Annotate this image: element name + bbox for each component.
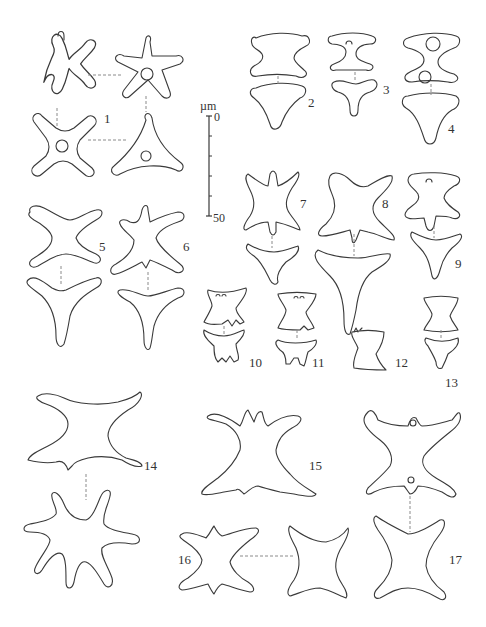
cell-drawings [0, 0, 486, 627]
figure-14 [24, 392, 142, 588]
figure-2 [250, 33, 309, 129]
figure-17-front-view [364, 411, 461, 497]
figure-label-13: 13 [445, 376, 458, 389]
figure-16-front-view [179, 526, 258, 594]
figure-label-9: 9 [455, 257, 462, 270]
figure-9 [405, 173, 462, 279]
scale-end-label: 50 [213, 212, 225, 224]
figure-label-15: 15 [309, 459, 322, 472]
figure-1-apical-view-triangle [112, 114, 183, 176]
figure-16-apical-view [240, 526, 349, 598]
figure-6 [111, 206, 184, 350]
figure-12 [352, 328, 386, 370]
figure-label-1: 1 [104, 112, 111, 125]
figure-15 [202, 410, 316, 496]
figure-17-apical-view [374, 496, 446, 600]
figure-plate: µm 0 50 1 2 3 4 5 6 7 8 9 10 11 12 13 14… [0, 0, 486, 627]
figure-label-8: 8 [382, 197, 389, 210]
figure-label-17: 17 [449, 553, 462, 566]
figure-label-11: 11 [312, 356, 325, 369]
scale-bar [206, 116, 212, 216]
scale-start-label: 0 [214, 111, 220, 123]
figure-label-6: 6 [183, 240, 190, 253]
figure-1-front-view [44, 32, 96, 94]
figure-label-16: 16 [178, 553, 191, 566]
figure-5 [27, 206, 102, 347]
figure-label-5: 5 [99, 240, 106, 253]
figure-13 [424, 297, 458, 369]
figure-1-apical-view-left [32, 114, 96, 177]
figure-label-4: 4 [448, 122, 455, 135]
figure-label-10: 10 [249, 356, 262, 369]
figure-3 [328, 33, 377, 116]
figure-label-14: 14 [144, 459, 157, 472]
figure-label-7: 7 [300, 197, 307, 210]
figure-label-12: 12 [395, 356, 408, 369]
figure-11 [276, 293, 317, 367]
figure-1-apical-view-top [116, 36, 183, 98]
figure-label-2: 2 [308, 96, 315, 109]
figure-7 [244, 171, 300, 284]
figure-label-3: 3 [383, 83, 390, 96]
figure-10 [204, 288, 247, 362]
